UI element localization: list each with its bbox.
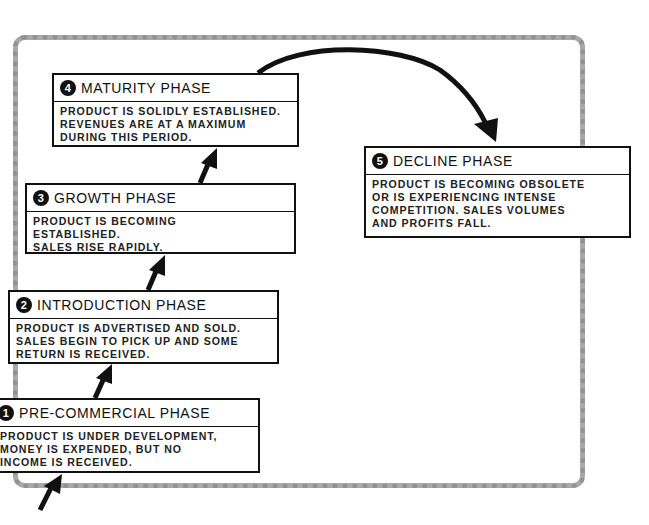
phase-header: 2 INTRODUCTION PHASE xyxy=(10,292,277,319)
phase-title: DECLINE PHASE xyxy=(393,153,513,169)
number-badge-icon: 2 xyxy=(16,297,32,313)
description-line: PRODUCT IS BECOMING xyxy=(33,215,288,228)
phase-title: GROWTH PHASE xyxy=(54,190,176,206)
phase-title: INTRODUCTION PHASE xyxy=(37,297,206,313)
phase-box-introduction: 2 INTRODUCTION PHASE PRODUCT IS ADVERTIS… xyxy=(8,290,279,364)
description-line: OR IS EXPERIENCING INTENSE xyxy=(372,191,623,204)
phase-description: PRODUCT IS UNDER DEVELOPMENT, MONEY IS E… xyxy=(0,427,258,469)
phase-box-pre-commercial: 1 PRE-COMMERCIAL PHASE PRODUCT IS UNDER … xyxy=(0,398,260,473)
number-badge-icon: 4 xyxy=(60,80,76,96)
description-line: COMPETITION. SALES VOLUMES xyxy=(372,204,623,217)
description-line: INCOME IS RECEIVED. xyxy=(0,456,252,469)
description-line: RETURN IS RECEIVED. xyxy=(16,348,271,361)
description-line: DURING THIS PERIOD. xyxy=(60,131,291,144)
description-line: SALES BEGIN TO PICK UP AND SOME xyxy=(16,335,271,348)
phase-description: PRODUCT IS ADVERTISED AND SOLD. SALES BE… xyxy=(10,319,277,361)
phase-description: PRODUCT IS SOLIDLY ESTABLISHED. REVENUES… xyxy=(54,102,297,144)
phase-title: PRE-COMMERCIAL PHASE xyxy=(19,405,210,421)
phase-header: 4 MATURITY PHASE xyxy=(54,75,297,102)
phase-header: 3 GROWTH PHASE xyxy=(27,185,294,212)
phase-title: MATURITY PHASE xyxy=(81,80,211,96)
phase-box-decline: 5 DECLINE PHASE PRODUCT IS BECOMING OBSO… xyxy=(364,146,631,238)
phase-box-growth: 3 GROWTH PHASE PRODUCT IS BECOMING ESTAB… xyxy=(25,183,296,254)
description-line: PRODUCT IS UNDER DEVELOPMENT, xyxy=(0,430,252,443)
description-line: PRODUCT IS ADVERTISED AND SOLD. xyxy=(16,322,271,335)
description-line: REVENUES ARE AT A MAXIMUM xyxy=(60,118,291,131)
number-badge-icon: 5 xyxy=(372,153,388,169)
phase-box-maturity: 4 MATURITY PHASE PRODUCT IS SOLIDLY ESTA… xyxy=(52,73,299,147)
description-line: ESTABLISHED. xyxy=(33,228,288,241)
phase-header: 5 DECLINE PHASE xyxy=(366,148,629,175)
description-line: MONEY IS EXPENDED, BUT NO xyxy=(0,443,252,456)
number-badge-icon: 1 xyxy=(0,405,14,421)
description-line: SALES RISE RAPIDLY. xyxy=(33,241,288,254)
phase-description: PRODUCT IS BECOMING ESTABLISHED. SALES R… xyxy=(27,212,294,254)
description-line: AND PROFITS FALL. xyxy=(372,217,623,230)
description-line: PRODUCT IS SOLIDLY ESTABLISHED. xyxy=(60,105,291,118)
phase-header: 1 PRE-COMMERCIAL PHASE xyxy=(0,400,258,427)
description-line: PRODUCT IS BECOMING OBSOLETE xyxy=(372,178,623,191)
phase-description: PRODUCT IS BECOMING OBSOLETE OR IS EXPER… xyxy=(366,175,629,230)
number-badge-icon: 3 xyxy=(33,190,49,206)
